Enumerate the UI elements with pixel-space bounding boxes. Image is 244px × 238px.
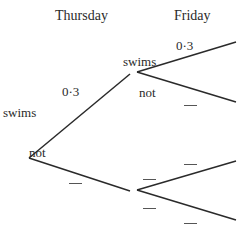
blank-node-not-top: [143, 179, 156, 180]
prob-thursday-swims: 0·3: [62, 85, 79, 98]
header-thursday: Thursday: [55, 9, 108, 23]
blank-friday-not-swims: [184, 164, 197, 165]
blank-thursday-not: [69, 183, 82, 184]
label-thursday-swims: swims: [3, 106, 36, 119]
branch-not-swims: [137, 161, 236, 190]
label-thursday-not: not: [29, 146, 46, 159]
blank-friday-not-not: [184, 223, 197, 224]
blank-friday-swims-not: [184, 105, 197, 106]
branch-thursday-not: [29, 158, 130, 191]
branch-not-not: [137, 190, 236, 220]
header-friday: Friday: [174, 9, 211, 23]
label-friday-swims: swims: [123, 55, 156, 68]
blank-node-not-bottom: [143, 208, 156, 209]
label-friday-not: not: [139, 86, 156, 99]
prob-friday-swims-swims: 0·3: [176, 39, 193, 52]
tree-lines: [0, 0, 244, 238]
